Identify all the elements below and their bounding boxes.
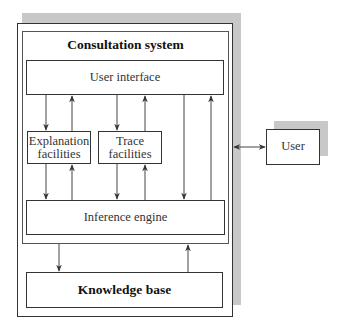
connector-arrows bbox=[0, 0, 340, 332]
